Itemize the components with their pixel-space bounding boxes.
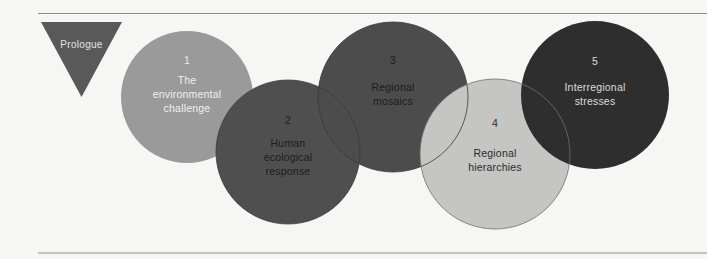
node-number-4: 4 [492, 117, 498, 129]
node-title-5-line-2: stresses [575, 95, 616, 107]
node-title-2-line-1: Human [271, 137, 306, 149]
node-title-5-line-1: Interregional [565, 81, 626, 93]
node-number-5: 5 [592, 55, 598, 67]
node-title-4-line-1: Regional [473, 147, 516, 159]
node-title-3-line-1: Regional [371, 81, 414, 93]
node-title-1-line-3: challenge [164, 102, 211, 114]
node-title-2-line-3: response [266, 165, 311, 177]
node-title-3-line-2: mosaics [373, 95, 413, 107]
node-number-1: 1 [184, 54, 190, 66]
node-number-3: 3 [390, 54, 396, 66]
node-title-4-line-2: hierarchies [468, 161, 522, 173]
diagram-canvas: Prologue 1 The environmental challenge 2… [0, 0, 707, 259]
venn-diagram-figure: Prologue 1 The environmental challenge 2… [0, 0, 707, 259]
prologue-label: Prologue [60, 39, 103, 50]
node-number-2: 2 [285, 114, 291, 126]
node-title-2-line-2: ecological [264, 151, 313, 163]
node-title-1-line-2: environmental [153, 88, 222, 100]
node-title-1-line-1: The [178, 74, 197, 86]
